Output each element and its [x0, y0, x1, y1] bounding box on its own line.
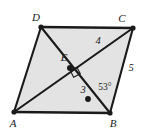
- vertex-label-a: A: [10, 118, 17, 129]
- geometry-figure: A B C D E 4 5 3 53°: [0, 0, 147, 131]
- vertex-label-d: D: [32, 12, 40, 23]
- marked-point-dot: [85, 96, 91, 102]
- intersection-dot-e: [67, 65, 73, 71]
- measure-label-5: 5: [128, 63, 133, 74]
- vertex-label-c: C: [118, 13, 125, 24]
- vertex-dot-d: [38, 24, 43, 29]
- angle-label-53: 53°: [98, 83, 111, 93]
- measure-label-3: 3: [80, 85, 85, 96]
- side-dc: [41, 27, 133, 28]
- side-ba: [14, 112, 110, 113]
- vertex-dot-b: [107, 110, 112, 115]
- vertex-dot-a: [11, 109, 16, 114]
- vertex-label-e: E: [61, 52, 68, 63]
- vertex-dot-c: [130, 25, 135, 30]
- vertex-label-b: B: [110, 118, 117, 129]
- measure-label-4: 4: [95, 36, 100, 47]
